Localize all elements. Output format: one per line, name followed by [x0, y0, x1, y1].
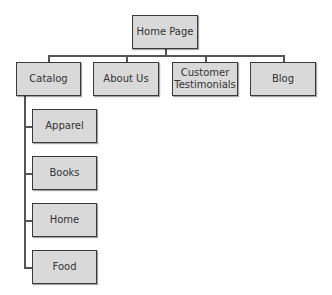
node-catalog: Catalog: [16, 62, 81, 96]
connector-root-down: [165, 48, 167, 55]
connector-apparel: [24, 126, 32, 128]
connector-blog-up: [283, 55, 285, 62]
connector-testimonials-up: [205, 55, 207, 62]
node-apparel: Apparel: [32, 109, 97, 143]
node-food: Food: [32, 250, 97, 284]
node-home-page: Home Page: [132, 15, 198, 49]
node-home: Home: [32, 203, 97, 237]
connector-books: [24, 173, 32, 175]
connector-catalog-up: [48, 55, 50, 62]
node-about-us: About Us: [93, 62, 159, 96]
connector-level1-horizontal: [48, 55, 284, 57]
connector-catalog-vertical: [24, 96, 26, 268]
connector-home: [24, 220, 32, 222]
connector-food: [24, 267, 32, 269]
node-blog: Blog: [250, 62, 316, 96]
connector-about-up: [126, 55, 128, 62]
node-customer-testimonials: Customer Testimonials: [172, 62, 238, 96]
node-books: Books: [32, 156, 97, 190]
